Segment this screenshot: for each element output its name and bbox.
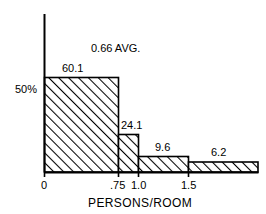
bar-0.75-1.0 [119,135,139,173]
bar-value-label-1: 24.1 [121,120,142,131]
xtick-label-1.5: 1.5 [181,180,196,191]
x-axis-title: PERSONS/ROOM [88,196,192,210]
average-annotation: 0.66 AVG. [91,43,140,54]
bar-value-label-2: 9.6 [155,142,170,153]
xtick-label-1.0: 1.0 [131,180,146,191]
bar-value-label-0: 60.1 [62,63,83,74]
ytick-label-50: 50% [15,84,37,95]
bar-value-label-3: 6.2 [211,147,226,158]
bar-1.5-plus [189,162,259,172]
xtick-label-0: 0 [41,180,47,191]
bar-0-0.75 [45,78,119,173]
bar-1.0-1.5 [139,157,189,173]
xtick-label-0.75: .75 [110,180,125,191]
histogram-chart: 50% 0.66 AVG. 60.1 24.1 9.6 6.2 0 .75 1.… [0,0,266,214]
